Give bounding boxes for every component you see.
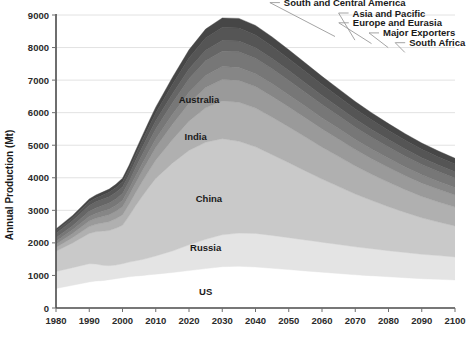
y-tick-label: 1000 (28, 270, 49, 281)
y-axis-title: Annual Production (Mt) (4, 130, 15, 241)
x-tick-label: 2060 (311, 315, 332, 326)
x-tick-label: 2100 (444, 315, 465, 326)
area-label-us: US (199, 286, 212, 297)
area-series-group (56, 0, 473, 340)
y-tick-label: 9000 (28, 10, 49, 21)
y-tick-label: 4000 (28, 172, 49, 183)
y-tick-label: 5000 (28, 140, 49, 151)
y-tick-label: 6000 (28, 107, 49, 118)
y-tick-label: 8000 (28, 42, 49, 53)
x-tick-label: 1990 (79, 315, 100, 326)
x-tick-label: 2070 (345, 315, 366, 326)
stacked-area-chart: 1980199020002010202020302040205020602070… (0, 0, 473, 340)
area-label-india: India (185, 131, 208, 142)
y-tick-label: 0 (44, 303, 49, 314)
y-tick-label: 7000 (28, 75, 49, 86)
chart-canvas: 1980199020002010202020302040205020602070… (0, 0, 473, 340)
x-tick-label: 2080 (378, 315, 399, 326)
callout-label-south-africa: South Africa (409, 37, 466, 48)
area-label-australia: Australia (179, 94, 220, 105)
area-label-russia: Russia (190, 242, 222, 253)
callout-label-europe-and-eurasia: Europe and Eurasia (353, 17, 443, 28)
x-tick-label: 1980 (45, 315, 66, 326)
area-label-china: China (196, 193, 223, 204)
x-tick-label: 2050 (278, 315, 299, 326)
x-tick-label: 2030 (212, 315, 233, 326)
x-tick-label: 2000 (112, 315, 133, 326)
y-tick-label: 2000 (28, 237, 49, 248)
x-axis-ticks-group: 1980199020002010202020302040205020602070… (45, 308, 465, 326)
x-tick-label: 2040 (245, 315, 266, 326)
y-tick-label: 3000 (28, 205, 49, 216)
y-axis-ticks-group: 0100020003000400050006000700080009000 (28, 10, 56, 314)
x-tick-label: 2090 (411, 315, 432, 326)
callout-label-major-exporters: Major Exporters (383, 27, 455, 38)
x-tick-label: 2020 (178, 315, 199, 326)
x-tick-label: 2010 (145, 315, 166, 326)
callout-label-asia-and-pacific: Asia and Pacific (353, 8, 426, 19)
callout-labels-group: South AfricaMajor ExportersEurope and Eu… (270, 0, 466, 52)
callout-label-south-and-central-america: South and Central America (284, 0, 406, 8)
